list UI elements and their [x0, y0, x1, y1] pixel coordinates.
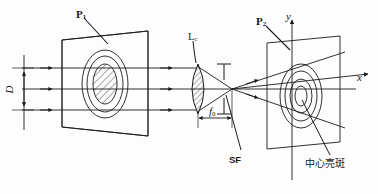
sf-leader-line: [226, 95, 241, 150]
label-plane-p2: P2: [256, 16, 266, 28]
diffraction-rings: [280, 64, 322, 128]
label-focal-length-f0: f0: [209, 106, 215, 118]
image-plane-p2: [267, 36, 340, 149]
label-spatial-filter-sf: SF: [229, 155, 241, 165]
label-plane-p1: P1: [76, 9, 86, 21]
diverging-rays: [232, 52, 356, 128]
optical-diagram-figure: P1 P2 Lc D f0 SF x y 中心亮斑: [0, 0, 378, 194]
label-axis-y: y: [286, 11, 291, 22]
label-lens-lc: Lc: [188, 32, 197, 43]
label-axis-x: x: [357, 72, 362, 83]
p2-leader-line: [266, 26, 290, 50]
label-center-bright-spot: 中心亮斑: [305, 159, 345, 169]
label-beam-diameter-d: D: [4, 86, 15, 94]
lens-leader-line: [193, 41, 196, 63]
coordinate-axes: [232, 20, 368, 180]
